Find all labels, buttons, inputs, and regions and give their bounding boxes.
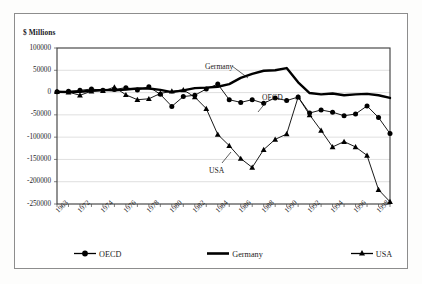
- chart-legend: OECD Germany USA: [22, 246, 400, 262]
- y-axis-tick-label: 0: [7, 88, 51, 96]
- y-axis-tick-label: -200000: [7, 177, 51, 185]
- legend-label-oecd: OECD: [99, 250, 121, 259]
- series-annotation-oecd: OECD: [262, 93, 283, 102]
- legend-item-oecd[interactable]: OECD: [74, 249, 121, 260]
- plot-area: [0, 0, 422, 284]
- data-point-oecd: [227, 97, 232, 102]
- y-axis-tick-label: -150000: [7, 155, 51, 163]
- data-point-oecd: [353, 111, 358, 116]
- data-point-usa: [284, 131, 290, 136]
- series-line-oecd: [57, 84, 390, 133]
- data-point-usa: [146, 96, 152, 101]
- data-point-usa: [330, 144, 336, 149]
- series-annotation-usa: USA: [209, 166, 224, 175]
- data-point-oecd: [365, 103, 370, 108]
- data-point-usa: [364, 153, 370, 158]
- y-axis-tick-label: -100000: [7, 133, 51, 141]
- data-point-oecd: [250, 97, 255, 102]
- data-point-oecd: [319, 107, 324, 112]
- y-axis-tick-label: 50000: [7, 66, 51, 74]
- legend-key-oecd-icon: [74, 249, 96, 260]
- data-point-oecd: [376, 115, 381, 120]
- legend-item-germany[interactable]: Germany: [207, 249, 262, 260]
- data-point-oecd: [284, 98, 289, 103]
- legend-label-germany: Germany: [232, 250, 262, 259]
- data-point-usa: [215, 132, 221, 137]
- data-point-oecd: [342, 113, 347, 118]
- series-line-germany: [57, 68, 390, 98]
- chart-figure: $ Millions OECD Germany: [0, 0, 422, 284]
- data-point-usa: [341, 139, 347, 144]
- legend-label-usa: USA: [376, 250, 392, 259]
- data-point-oecd: [169, 104, 174, 109]
- data-point-usa: [112, 84, 118, 89]
- y-axis-tick-label: -250000: [7, 200, 51, 208]
- data-point-oecd: [388, 131, 393, 136]
- y-axis-tick-label: -50000: [7, 110, 51, 118]
- data-point-oecd: [181, 94, 186, 99]
- data-point-oecd: [238, 100, 243, 105]
- data-point-usa: [353, 144, 359, 149]
- series-line-usa: [57, 87, 390, 202]
- data-point-oecd: [330, 110, 335, 115]
- series-annotation-germany: Germany: [205, 62, 233, 71]
- y-axis-tick-label: 100000: [7, 44, 51, 52]
- data-point-usa: [376, 187, 382, 192]
- legend-key-germany-icon: [207, 249, 229, 260]
- legend-key-usa-icon: [351, 249, 373, 260]
- legend-item-usa[interactable]: USA: [351, 249, 392, 260]
